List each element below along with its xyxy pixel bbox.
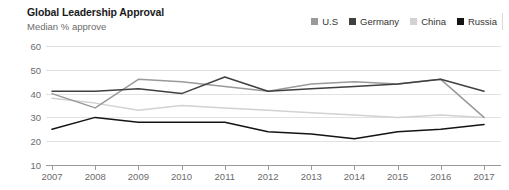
- y-axis-tick-label: 30: [30, 112, 41, 123]
- series-lines-group: [52, 77, 484, 139]
- y-axis-tick-label: 40: [30, 89, 41, 100]
- gridlines-group: [46, 47, 501, 142]
- x-axis-labels-group: 2007200820092010201120122013201420152016…: [41, 171, 494, 182]
- x-axis-tick-label: 2013: [301, 171, 322, 182]
- series-line-u-s: [52, 79, 484, 117]
- x-axis-tick-label: 2012: [257, 171, 278, 182]
- x-axis-tick-label: 2009: [128, 171, 149, 182]
- series-line-russia: [52, 117, 484, 138]
- x-axis-tick-label: 2010: [171, 171, 192, 182]
- x-axis-tick-label: 2015: [387, 171, 408, 182]
- x-axis-group: [46, 166, 501, 170]
- x-axis-tick-label: 2011: [215, 171, 235, 182]
- x-axis-tick-label: 2007: [41, 171, 62, 182]
- plot-area: 102030405060 200720082009201020112012201…: [0, 0, 509, 190]
- y-axis-tick-label: 50: [30, 65, 41, 76]
- series-line-china: [52, 98, 484, 117]
- x-axis-tick-label: 2016: [430, 171, 451, 182]
- x-axis-tick-label: 2017: [473, 171, 494, 182]
- line-chart-svg: 102030405060 200720082009201020112012201…: [0, 0, 509, 190]
- series-line-germany: [52, 77, 484, 94]
- chart-card: Global Leadership Approval Median % appr…: [0, 0, 509, 190]
- x-axis-tick-label: 2014: [344, 171, 365, 182]
- y-axis-tick-label: 10: [30, 160, 41, 171]
- x-axis-tick-label: 2008: [85, 171, 106, 182]
- y-axis-tick-label: 60: [30, 41, 41, 52]
- y-axis-labels-group: 102030405060: [30, 41, 41, 171]
- y-axis-tick-label: 20: [30, 136, 41, 147]
